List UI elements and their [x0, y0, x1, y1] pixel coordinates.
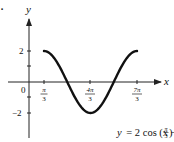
svg-text:): ) [169, 127, 173, 139]
svg-text:3: 3 [135, 95, 139, 103]
svg-text:π: π [42, 86, 46, 94]
x-axis-label: x [163, 75, 169, 87]
y-tick-label-neg2: −2 [12, 108, 22, 118]
cosine-graph: y x 0 2 −2 π 3 4π 3 7π 3 [0, 0, 174, 142]
equation-label: y = 2 cos (x − π 3 ) [116, 126, 174, 139]
y-axis-label: y [25, 3, 31, 15]
svg-text:3: 3 [165, 133, 168, 139]
svg-text:3: 3 [42, 95, 46, 103]
svg-text:7π: 7π [133, 86, 141, 94]
x-tick-label-pi-over-3: π 3 [41, 86, 48, 103]
origin-label: 0 [21, 85, 26, 95]
x-tick-label-7pi-over-3: 7π 3 [132, 86, 142, 103]
svg-text:3: 3 [88, 95, 92, 103]
y-tick-label-2: 2 [19, 46, 24, 56]
svg-text:4π: 4π [86, 86, 94, 94]
x-tick-label-4pi-over-3: 4π 3 [85, 86, 95, 103]
x-ticks: π 3 4π 3 7π 3 [41, 80, 143, 103]
